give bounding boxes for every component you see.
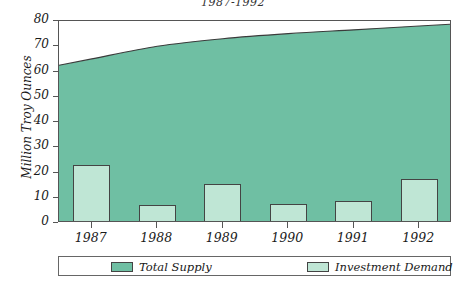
x-tick-line: [287, 222, 288, 228]
y-axis-tick: 0: [0, 222, 58, 223]
y-tick-label: 70: [34, 36, 49, 53]
x-tick-line: [353, 222, 354, 228]
bar: [270, 204, 307, 221]
x-tick-label: 1989: [192, 230, 252, 245]
y-tick-label: 30: [34, 137, 49, 154]
bar: [401, 179, 438, 221]
x-tick-line: [91, 222, 92, 228]
total-supply-area: [59, 21, 450, 221]
y-axis-tick: 30: [0, 146, 58, 147]
x-tick-line: [418, 222, 419, 228]
y-tick-label: 20: [34, 163, 49, 180]
x-tick-line: [156, 222, 157, 228]
legend-item: Total Supply: [111, 260, 212, 273]
x-tick-label: 1990: [257, 230, 317, 245]
y-axis-tick: 20: [0, 172, 58, 173]
x-tick-label: 1987: [61, 230, 121, 245]
bar: [73, 165, 110, 221]
y-tick-label: 10: [34, 188, 49, 205]
x-tick-label: 1991: [323, 230, 383, 245]
legend-label: Investment Demand: [335, 260, 453, 274]
y-axis-tick: 50: [0, 96, 58, 97]
y-axis-tick: 10: [0, 197, 58, 198]
y-tick-label: 80: [34, 11, 49, 28]
y-tick-label: 50: [34, 87, 49, 104]
y-axis-tick: 60: [0, 71, 58, 72]
bar: [139, 205, 176, 221]
y-axis-label: Million Troy Ounces: [20, 22, 34, 212]
x-tick-line: [222, 222, 223, 228]
y-axis-tick: 80: [0, 20, 58, 21]
plot-area: [58, 20, 451, 222]
y-tick-label: 0: [41, 213, 49, 230]
chart-legend: Total SupplyInvestment Demand: [58, 256, 451, 276]
legend-swatch: [307, 262, 329, 272]
bar: [204, 184, 241, 221]
bar: [335, 201, 372, 221]
y-tick-line: [53, 222, 58, 223]
legend-swatch: [111, 262, 133, 272]
y-tick-label: 40: [34, 112, 49, 129]
chart-title: 1987-1992: [0, 0, 466, 9]
legend-item: Investment Demand: [307, 260, 453, 273]
x-tick-label: 1988: [126, 230, 186, 245]
y-axis-tick: 40: [0, 121, 58, 122]
legend-label: Total Supply: [139, 260, 212, 274]
y-axis-tick: 70: [0, 45, 58, 46]
y-tick-label: 60: [34, 62, 49, 79]
chart-container: 1987-1992 Million Troy Ounces 0102030405…: [0, 0, 466, 282]
plot-inner: [59, 21, 450, 221]
x-tick-label: 1992: [388, 230, 448, 245]
